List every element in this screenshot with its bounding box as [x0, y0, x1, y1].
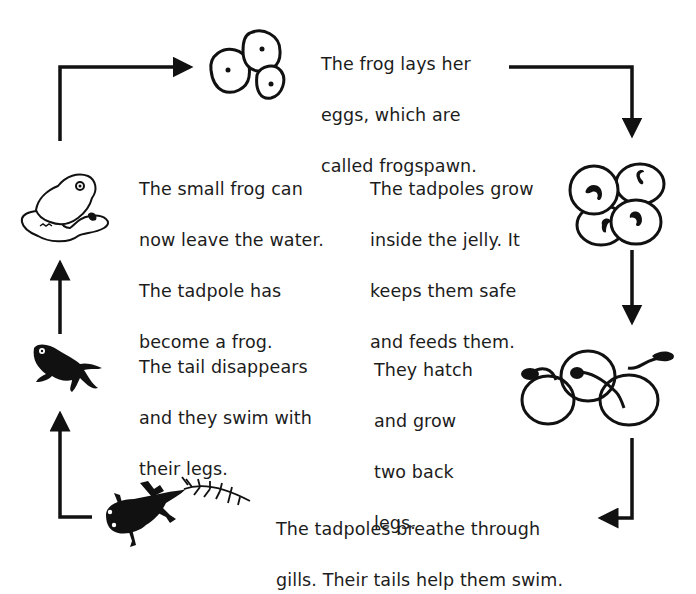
arrow-hatching-to-gills	[601, 438, 632, 518]
caption-frog: The small frog can now leave the water. …	[139, 151, 324, 381]
frogspawn-icon	[205, 25, 300, 105]
caption-line: The small frog can	[139, 177, 324, 203]
caption-line: inside the jelly. It	[370, 228, 534, 254]
caption-line: two back	[374, 460, 473, 486]
caption-line: The tadpoles grow	[370, 177, 534, 203]
frog-on-lily-pad-icon	[18, 170, 113, 245]
caption-line: now leave the water.	[139, 228, 324, 254]
arrow-frog-to-frogspawn	[60, 67, 190, 141]
froglet-icon	[28, 338, 108, 398]
caption-gills: The tadpoles breathe through gills. Thei…	[276, 491, 563, 594]
caption-line: their legs.	[139, 457, 312, 483]
caption-line: and grow	[374, 409, 473, 435]
caption-line: The tadpole has	[139, 279, 324, 305]
arrow-gills-to-froglet	[60, 414, 92, 517]
caption-line: The tadpoles breathe through	[276, 517, 563, 543]
embryo-in-jelly-icon	[568, 160, 678, 250]
caption-line: eggs, which are	[321, 103, 477, 129]
caption-line: and they swim with	[139, 406, 312, 432]
caption-line: The frog lays her	[321, 52, 477, 78]
caption-line: keeps them safe	[370, 279, 534, 305]
caption-line: They hatch	[374, 358, 473, 384]
caption-line: become a frog.	[139, 330, 324, 356]
hatching-tadpoles-icon	[512, 340, 682, 430]
caption-line: gills. Their tails help them swim.	[276, 568, 563, 594]
arrow-frogspawn-to-embryo	[509, 67, 632, 135]
